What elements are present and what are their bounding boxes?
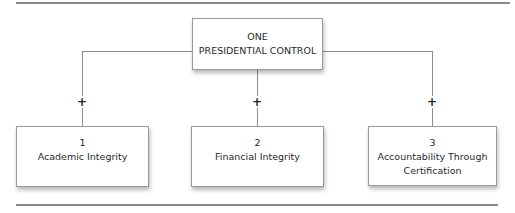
- child-number: 2: [254, 136, 260, 150]
- plus-icon: +: [427, 96, 437, 108]
- connector-horizontal-right: [323, 51, 433, 52]
- child-label: Academic Integrity: [38, 150, 128, 164]
- top-box-line1: ONE: [247, 30, 268, 44]
- connector-horizontal-left: [82, 51, 192, 52]
- connector-vertical-left: [82, 51, 83, 126]
- presidential-control-box: ONE PRESIDENTIAL CONTROL: [192, 18, 323, 70]
- child-box-financial-integrity: 2 Financial Integrity: [191, 126, 324, 187]
- child-number: 1: [79, 136, 85, 150]
- child-number: 3: [429, 136, 435, 150]
- child-label-line2: Certification: [404, 164, 462, 178]
- child-box-academic-integrity: 1 Academic Integrity: [16, 126, 149, 187]
- bottom-rule: [16, 204, 498, 206]
- top-rule: [16, 2, 510, 4]
- plus-icon: +: [252, 96, 262, 108]
- child-label: Financial Integrity: [215, 150, 300, 164]
- plus-icon: +: [77, 96, 87, 108]
- top-box-line2: PRESIDENTIAL CONTROL: [199, 44, 316, 58]
- child-label: Accountability Through: [378, 150, 488, 164]
- child-box-accountability-through-certification: 3 Accountability Through Certification: [368, 126, 497, 186]
- connector-vertical-right: [432, 51, 433, 126]
